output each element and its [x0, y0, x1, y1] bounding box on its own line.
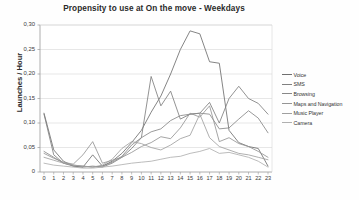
y-tick-label: 0 — [15, 168, 35, 174]
legend-item-label: Voice — [294, 72, 307, 78]
legend-swatch-icon — [282, 103, 292, 104]
legend-item-sms[interactable]: SMS — [282, 80, 358, 90]
legend-swatch-icon — [282, 84, 292, 85]
legend-item-label: Music Player — [294, 110, 324, 116]
chart-legend: VoiceSMSBrowsingMaps and NavigationMusic… — [282, 70, 358, 128]
y-tick-label: 0,25 — [15, 46, 35, 52]
legend-item-voice[interactable]: Voice — [282, 70, 358, 80]
legend-item-browsing[interactable]: Browsing — [282, 89, 358, 99]
y-tick-label: 0,15 — [15, 95, 35, 101]
legend-swatch-icon — [282, 113, 292, 114]
legend-item-label: Maps and Navigation — [294, 101, 343, 107]
x-tick-label: 23 — [262, 175, 274, 181]
y-tick-label: 0,10 — [15, 119, 35, 125]
legend-item-maps-and-navigation[interactable]: Maps and Navigation — [282, 99, 358, 109]
chart-screenshot: Propensity to use at On the move - Weekd… — [0, 0, 359, 200]
legend-item-label: Browsing — [294, 91, 315, 97]
legend-swatch-icon — [282, 122, 292, 123]
legend-swatch-icon — [282, 74, 292, 75]
legend-item-camera[interactable]: Camera — [282, 118, 358, 128]
y-tick-label: 0,20 — [15, 70, 35, 76]
legend-item-music-player[interactable]: Music Player — [282, 108, 358, 118]
legend-item-label: Camera — [294, 120, 313, 126]
legend-swatch-icon — [282, 93, 292, 94]
y-tick-label: 0,05 — [15, 144, 35, 150]
y-tick-label: 0,30 — [15, 21, 35, 27]
legend-item-label: SMS — [294, 81, 305, 87]
